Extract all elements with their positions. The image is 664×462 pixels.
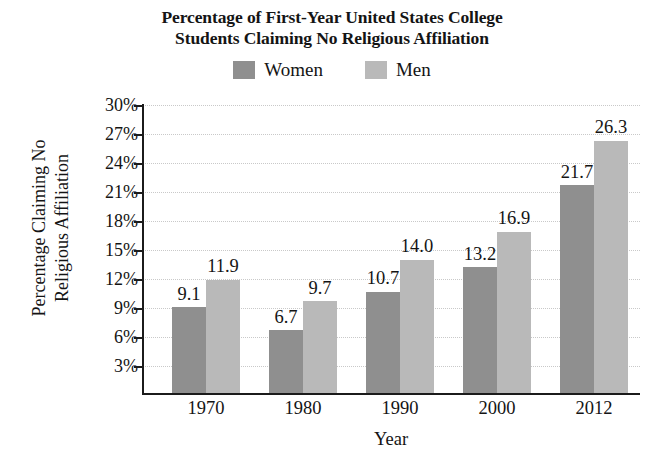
bar-group: 10.714.0 bbox=[366, 105, 434, 395]
y-axis-tick-label: 6% bbox=[86, 328, 138, 346]
y-axis-title: Percentage Claiming No Religious Affilia… bbox=[28, 88, 74, 368]
y-axis-tick-label: 12% bbox=[86, 270, 138, 288]
y-axis-tick bbox=[134, 105, 142, 107]
y-axis-tick bbox=[134, 134, 142, 136]
y-axis-line bbox=[142, 104, 144, 395]
y-axis-tick bbox=[134, 221, 142, 223]
bar-group: 13.216.9 bbox=[463, 105, 531, 395]
y-axis-tick-label: 9% bbox=[86, 299, 138, 317]
y-axis-tick bbox=[134, 308, 142, 310]
bar-group: 21.726.3 bbox=[560, 105, 628, 395]
bar-men-1970 bbox=[206, 280, 240, 395]
chart-legend: Women Men bbox=[0, 60, 664, 79]
chart-title: Percentage of First-Year United States C… bbox=[0, 7, 664, 49]
chart-page: Percentage of First-Year United States C… bbox=[0, 0, 664, 462]
legend-label-women: Women bbox=[264, 60, 323, 79]
y-axis-tick-label: 30% bbox=[86, 96, 138, 114]
legend-swatch-men bbox=[365, 61, 387, 79]
bar-value-label: 11.9 bbox=[195, 257, 251, 276]
y-axis-tick-labels: 3%6%9%12%15%18%21%24%27%30% bbox=[86, 105, 138, 395]
chart-title-line-2: Students Claiming No Religious Affiliati… bbox=[0, 28, 664, 49]
legend-label-men: Men bbox=[396, 60, 431, 79]
bar-men-2012 bbox=[594, 141, 628, 395]
x-axis-tick-label-1990: 1990 bbox=[355, 399, 445, 418]
x-axis-tick-label-1970: 1970 bbox=[161, 399, 251, 418]
bar-women-2000 bbox=[463, 267, 497, 395]
legend-swatch-women bbox=[233, 61, 255, 79]
bar-group: 6.79.7 bbox=[269, 105, 337, 395]
bar-value-label: 26.3 bbox=[583, 118, 639, 137]
x-axis-line bbox=[142, 393, 640, 395]
y-axis-tick-label: 24% bbox=[86, 154, 138, 172]
plot-area: 9.111.96.79.710.714.013.216.921.726.3 bbox=[142, 105, 640, 395]
y-axis-title-line-2: Religious Affiliation bbox=[51, 88, 74, 368]
bar-men-1980 bbox=[303, 301, 337, 395]
chart-title-line-1: Percentage of First-Year United States C… bbox=[0, 7, 664, 28]
y-axis-tick bbox=[134, 279, 142, 281]
y-axis-tick bbox=[134, 250, 142, 252]
x-axis-title: Year bbox=[142, 430, 640, 449]
bar-women-2012 bbox=[560, 185, 594, 395]
legend-item-women: Women bbox=[233, 60, 323, 79]
y-axis-tick bbox=[134, 163, 142, 165]
x-axis-tick-label-2012: 2012 bbox=[549, 399, 639, 418]
bar-men-2000 bbox=[497, 232, 531, 395]
y-axis-tick bbox=[134, 366, 142, 368]
legend-item-men: Men bbox=[365, 60, 431, 79]
y-axis-tick bbox=[134, 192, 142, 194]
bar-group: 9.111.9 bbox=[172, 105, 240, 395]
bar-women-1980 bbox=[269, 330, 303, 395]
y-axis-tick-label: 18% bbox=[86, 212, 138, 230]
bar-value-label: 16.9 bbox=[486, 209, 542, 228]
x-axis-tick-label-2000: 2000 bbox=[452, 399, 542, 418]
y-axis-tick-label: 21% bbox=[86, 183, 138, 201]
y-axis-tick-label: 15% bbox=[86, 241, 138, 259]
x-axis-tick-label-1980: 1980 bbox=[258, 399, 348, 418]
bar-women-1970 bbox=[172, 307, 206, 395]
y-axis-tick bbox=[134, 337, 142, 339]
y-axis-tick-label: 27% bbox=[86, 125, 138, 143]
bar-men-1990 bbox=[400, 260, 434, 395]
bar-women-1990 bbox=[366, 292, 400, 395]
y-axis-title-line-1: Percentage Claiming No bbox=[28, 88, 51, 368]
y-axis-tick-label: 3% bbox=[86, 357, 138, 375]
bar-value-label: 9.7 bbox=[292, 279, 348, 298]
bar-value-label: 14.0 bbox=[389, 237, 445, 256]
